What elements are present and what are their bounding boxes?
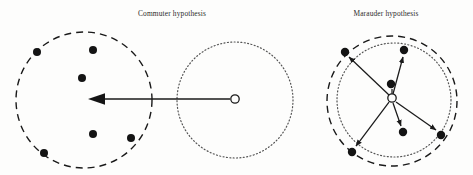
offence-point [399,128,407,136]
offence-point [40,149,48,157]
offence-point [341,48,349,56]
panel-title-marauder: Marauder hypothesis [353,9,418,18]
offence-point [127,134,135,142]
offender-residence-marker-marauder [388,94,396,102]
offence-point [89,46,97,54]
offence-point [33,48,41,56]
offence-point [400,46,408,54]
offence-point [78,74,86,82]
figure-background [0,0,473,175]
offence-point [348,148,356,156]
offender-residence-marker-commuter [231,95,239,103]
offence-point [89,130,97,138]
offence-point [437,131,445,139]
panel-title-commuter: Commuter hypothesis [138,9,206,18]
offence-point [387,80,395,88]
hypothesis-comparison-figure: Commuter hypothesis Marauder hypothesis [0,0,473,175]
